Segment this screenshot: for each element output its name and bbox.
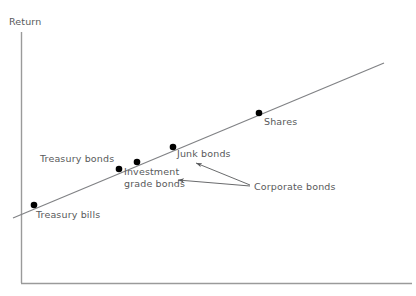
data-point-shares bbox=[256, 110, 263, 117]
point-label-investment-grade-bonds-line2: grade bonds bbox=[124, 178, 185, 190]
data-point-treasury-bonds bbox=[116, 166, 123, 173]
point-label-investment-grade-bonds: Investment grade bonds bbox=[124, 166, 185, 189]
point-label-investment-grade-bonds-line1: Investment bbox=[124, 166, 185, 178]
data-point-investment-grade-bonds bbox=[134, 159, 141, 166]
risk-return-chart: Return Treasury bills Treasury bonds Inv… bbox=[0, 0, 416, 296]
annotation-arrow-to-junk-bonds bbox=[196, 163, 250, 185]
point-label-shares: Shares bbox=[264, 116, 297, 128]
point-label-treasury-bills: Treasury bills bbox=[36, 209, 100, 221]
point-label-treasury-bonds: Treasury bonds bbox=[40, 153, 114, 165]
annotation-label-corporate-bonds: Corporate bonds bbox=[254, 181, 336, 193]
data-point-junk-bonds bbox=[170, 144, 177, 151]
y-axis-label: Return bbox=[9, 16, 41, 28]
data-point-treasury-bills bbox=[31, 202, 38, 209]
risk-return-trend-line bbox=[13, 63, 384, 218]
point-label-junk-bonds: Junk bonds bbox=[177, 148, 231, 160]
